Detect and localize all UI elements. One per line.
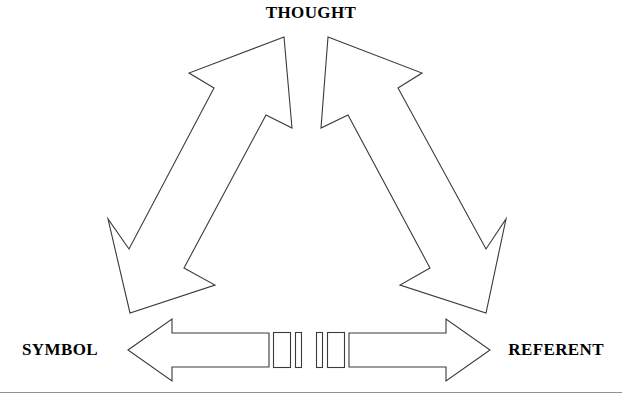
- arrow-break-segment-4: [328, 333, 345, 368]
- arrow-symbol-thought: [108, 37, 292, 313]
- diagram-canvas: THOUGHT SYMBOL REFERENT: [0, 0, 622, 405]
- node-label-thought: THOUGHT: [0, 4, 622, 21]
- arrow-symbol-referent-right-segment: [349, 319, 490, 381]
- node-label-referent: REFERENT: [508, 341, 604, 358]
- arrow-break-segment-3: [317, 333, 323, 368]
- node-label-symbol: SYMBOL: [22, 341, 98, 358]
- arrow-thought-referent: [321, 37, 506, 313]
- arrow-break-segment-2: [296, 333, 302, 368]
- bottom-divider: [0, 392, 622, 393]
- arrow-symbol-referent-left-segment: [128, 319, 269, 381]
- arrow-break-segment-1: [274, 333, 291, 368]
